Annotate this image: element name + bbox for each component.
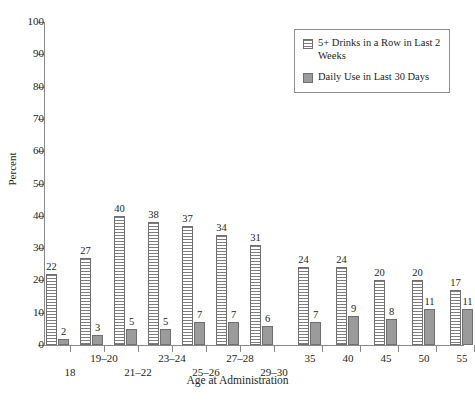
x-tick-mark xyxy=(360,345,361,352)
bar-value-label: 11 xyxy=(462,296,472,307)
x-tick-label: 40 xyxy=(343,352,354,364)
bar-value-label: 6 xyxy=(265,313,270,324)
x-tick-label: 45 xyxy=(381,352,392,364)
solid-bar-swatch-icon xyxy=(303,73,313,83)
x-tick-mark xyxy=(206,345,207,352)
bar-value-label: 9 xyxy=(351,303,356,314)
y-tick-label: 100 xyxy=(12,16,44,27)
legend-item-daily-use: Daily Use in Last 30 Days xyxy=(303,71,441,84)
y-tick-label: 30 xyxy=(12,242,44,253)
bar-value-label: 3 xyxy=(95,322,100,333)
bar-group: 273 xyxy=(80,22,104,345)
bar-group: 377 xyxy=(182,22,206,345)
bar-5plus-drinks: 24 xyxy=(298,267,309,345)
x-tick-mark xyxy=(436,345,437,352)
bar-value-label: 17 xyxy=(450,277,461,288)
x-tick-mark xyxy=(322,345,323,352)
x-axis-title: Age at Administration xyxy=(0,374,475,386)
bar-value-label: 31 xyxy=(250,232,261,243)
x-tick-label: 50 xyxy=(419,352,430,364)
x-tick-label: 27–28 xyxy=(226,352,254,364)
x-axis-line xyxy=(44,345,464,346)
bar-5plus-drinks: 40 xyxy=(114,216,125,345)
x-tick-mark xyxy=(274,345,275,352)
bar-value-label: 40 xyxy=(114,203,125,214)
bar-daily-use: 9 xyxy=(348,316,359,345)
bar-group: 405 xyxy=(114,22,138,345)
y-tick: 40 xyxy=(0,216,44,217)
bar-value-label: 5 xyxy=(129,316,134,327)
bar-value-label: 7 xyxy=(197,309,202,320)
bar-value-label: 11 xyxy=(424,296,434,307)
y-tick: 80 xyxy=(0,87,44,88)
hatched-bar-swatch-icon xyxy=(303,39,313,49)
bar-5plus-drinks: 27 xyxy=(80,258,91,345)
x-tick-label: 19–20 xyxy=(90,352,118,364)
bar-group: 385 xyxy=(148,22,172,345)
legend-item-5plus-drinks: 5+ Drinks in a Row in Last 2 Weeks xyxy=(303,37,441,62)
bar-value-label: 38 xyxy=(148,209,159,220)
bar-group: 222 xyxy=(46,22,70,345)
y-tick-label: 20 xyxy=(12,274,44,285)
bar-value-label: 8 xyxy=(389,306,394,317)
bar-group: 347 xyxy=(216,22,240,345)
x-tick-mark xyxy=(138,345,139,352)
bar-daily-use: 6 xyxy=(262,326,273,345)
y-tick: 100 xyxy=(0,22,44,23)
bar-value-label: 27 xyxy=(80,245,91,256)
bar-5plus-drinks: 38 xyxy=(148,222,159,345)
x-tick-label: 23–24 xyxy=(158,352,186,364)
y-tick-label: 70 xyxy=(12,113,44,124)
bar-value-label: 34 xyxy=(216,222,227,233)
y-tick-label: 10 xyxy=(12,307,44,318)
bar-5plus-drinks: 31 xyxy=(250,245,261,345)
y-tick-label: 40 xyxy=(12,210,44,221)
x-tick-mark xyxy=(398,345,399,352)
bar-daily-use: 5 xyxy=(126,329,137,345)
y-tick: 20 xyxy=(0,280,44,281)
chart-legend: 5+ Drinks in a Row in Last 2 Weeks Daily… xyxy=(294,29,450,93)
bar-daily-use: 5 xyxy=(160,329,171,345)
y-tick: 30 xyxy=(0,248,44,249)
bar-5plus-drinks: 24 xyxy=(336,267,347,345)
bar-value-label: 7 xyxy=(231,309,236,320)
y-tick: 70 xyxy=(0,119,44,120)
bar-value-label: 22 xyxy=(46,261,57,272)
legend-label: Daily Use in Last 30 Days xyxy=(318,71,429,84)
bar-daily-use: 7 xyxy=(228,322,239,345)
bar-5plus-drinks: 37 xyxy=(182,226,193,346)
x-tick-mark xyxy=(240,345,241,352)
bar-value-label: 24 xyxy=(336,254,347,265)
bar-5plus-drinks: 17 xyxy=(450,290,461,345)
x-tick-mark xyxy=(172,345,173,352)
y-tick: 90 xyxy=(0,54,44,55)
x-tick-label: 35 xyxy=(305,352,316,364)
bar-value-label: 20 xyxy=(374,267,385,278)
bar-daily-use: 8 xyxy=(386,319,397,345)
bar-daily-use: 11 xyxy=(462,309,473,345)
bar-daily-use: 11 xyxy=(424,309,435,345)
bar-group: 316 xyxy=(250,22,274,345)
bar-value-label: 37 xyxy=(182,213,193,224)
bar-chart: 0102030405060708090100 Percent 222273405… xyxy=(0,0,475,406)
bar-5plus-drinks: 20 xyxy=(412,280,423,345)
bar-group: 1711 xyxy=(450,22,474,345)
bar-5plus-drinks: 34 xyxy=(216,235,227,345)
bar-5plus-drinks: 20 xyxy=(374,280,385,345)
legend-label: 5+ Drinks in a Row in Last 2 Weeks xyxy=(318,37,441,62)
x-tick-label: 55 xyxy=(457,352,468,364)
x-tick-mark xyxy=(104,345,105,352)
bar-value-label: 24 xyxy=(298,254,309,265)
y-axis-title: Percent xyxy=(6,139,18,199)
bar-daily-use: 3 xyxy=(92,335,103,345)
y-tick-label: 80 xyxy=(12,81,44,92)
x-tick-mark xyxy=(70,345,71,352)
bar-daily-use: 7 xyxy=(310,322,321,345)
y-tick: 0 xyxy=(0,345,44,346)
y-tick: 10 xyxy=(0,313,44,314)
bar-value-label: 2 xyxy=(61,326,66,337)
bar-value-label: 7 xyxy=(313,309,318,320)
bar-value-label: 20 xyxy=(412,267,423,278)
bar-5plus-drinks: 22 xyxy=(46,274,57,345)
y-tick-label: 0 xyxy=(12,339,44,350)
